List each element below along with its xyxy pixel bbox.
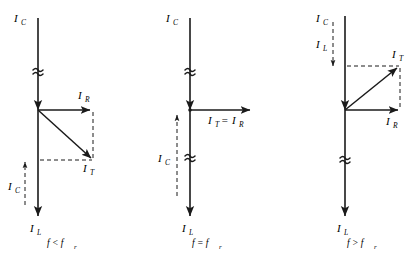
label-il-bottom: I L [336, 222, 348, 237]
svg-text:L: L [36, 228, 41, 237]
svg-text:f > f: f > f [347, 238, 365, 248]
svg-text:T: T [215, 120, 220, 129]
svg-text:L: L [188, 228, 193, 237]
svg-text:f = f: f = f [192, 238, 210, 248]
svg-text:C: C [173, 18, 179, 27]
svg-text:r: r [374, 243, 377, 251]
svg-text:C: C [15, 186, 21, 195]
panel-above-resonance: I C I L I T I R I L f > f r [315, 12, 404, 251]
label-il-bottom: I L [181, 222, 193, 237]
svg-text:I: I [181, 222, 187, 234]
label-it-equals-ir: I T = I R [207, 114, 244, 129]
svg-text:I: I [82, 162, 88, 174]
svg-text:I: I [315, 38, 321, 50]
svg-text:C: C [21, 18, 27, 27]
vector-it [345, 68, 397, 110]
svg-text:I: I [165, 12, 171, 24]
label-ic-top: I C [13, 12, 27, 27]
label-net-il: I L [315, 38, 327, 53]
label-it: I T [391, 48, 404, 63]
svg-text:R: R [392, 121, 398, 130]
caption-below-resonance: f < f r [47, 238, 77, 251]
svg-text:I: I [7, 180, 13, 192]
svg-text:I: I [13, 12, 19, 24]
svg-text:I: I [385, 115, 391, 127]
caption-above-resonance: f > f r [347, 238, 377, 251]
label-ir: I R [385, 115, 398, 130]
svg-text:R: R [238, 120, 244, 129]
svg-text:L: L [343, 228, 348, 237]
label-ir: I R [77, 89, 90, 104]
svg-text:I: I [231, 114, 237, 126]
label-it: I T [82, 162, 95, 177]
svg-text:f < f: f < f [47, 238, 65, 248]
svg-text:I: I [391, 48, 397, 60]
phasor-diagram-canvas: I C I R I T I C I L f < f r [0, 0, 418, 262]
svg-text:I: I [315, 12, 321, 24]
svg-text:I: I [29, 222, 35, 234]
label-il-bottom: I L [29, 222, 41, 237]
svg-text:I: I [157, 152, 163, 164]
label-ic-top: I C [165, 12, 179, 27]
svg-text:C: C [323, 18, 329, 27]
vector-it [38, 110, 91, 158]
svg-text:T: T [90, 168, 95, 177]
panel-below-resonance: I C I R I T I C I L f < f r [7, 12, 95, 251]
label-ic-top: I C [315, 12, 329, 27]
svg-text:R: R [84, 95, 90, 104]
phasor-figure: I C I R I T I C I L f < f r [0, 0, 418, 262]
panel-at-resonance: I C I T = I R I C I L f = f r [157, 12, 250, 251]
label-net-ic: I C [157, 152, 171, 167]
svg-text:r: r [74, 243, 77, 251]
svg-text:I: I [207, 114, 213, 126]
svg-text:C: C [165, 158, 171, 167]
svg-text:I: I [336, 222, 342, 234]
svg-text:T: T [399, 54, 404, 63]
caption-at-resonance: f = f r [192, 238, 222, 251]
svg-text:=: = [221, 114, 228, 126]
svg-text:L: L [322, 44, 327, 53]
svg-text:r: r [219, 243, 222, 251]
svg-text:I: I [77, 89, 83, 101]
label-net-ic: I C [7, 180, 21, 195]
